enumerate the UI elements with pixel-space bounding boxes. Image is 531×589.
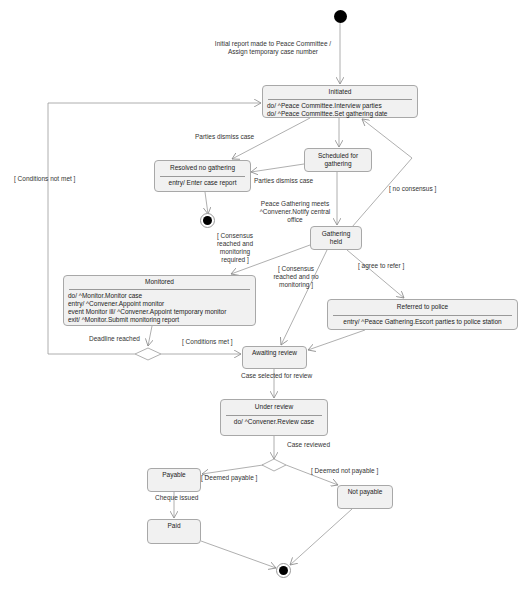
compartment-divider xyxy=(333,315,512,316)
state-awaiting-review[interactable]: Awaiting review xyxy=(242,346,307,369)
transition-label-consensus-no-monitoring: [ Consensus reached and no monitoring ] xyxy=(268,265,324,289)
state-resolved-no-gathering[interactable]: Resolved no gathering entry/ Enter case … xyxy=(154,160,251,192)
label-line: Assign temporary case number xyxy=(205,48,341,56)
state-under-review[interactable]: Under review do/ ^Convener.Review case xyxy=(220,399,328,436)
transition-label-gathering-meets: Peace Gathering meets ^Convener.Notify c… xyxy=(254,200,336,224)
transition-label-deadline: Deadline reached xyxy=(89,335,140,343)
state-name: Scheduled for gathering xyxy=(305,149,371,168)
decision-diamond-payment xyxy=(262,459,286,471)
compartment-divider xyxy=(69,289,250,290)
label-line: [ Consensus xyxy=(211,232,259,240)
transition-label-cheque-issued: Cheque issued xyxy=(155,494,198,502)
transition-label-case-reviewed: Case reviewed xyxy=(287,441,330,449)
state-payable[interactable]: Payable xyxy=(147,468,201,492)
label-line: Peace Gathering meets xyxy=(254,200,336,208)
state-name: Gathering held xyxy=(311,227,361,246)
state-gathering-held[interactable]: Gathering held xyxy=(310,226,362,250)
state-action: do/ ^Convener.Review case xyxy=(221,418,327,426)
label-line: office xyxy=(254,216,336,224)
state-paid[interactable]: Paid xyxy=(147,519,201,544)
label-line: Initial report made to Peace Committee / xyxy=(205,40,341,48)
state-action: do/ ^Peace Committee.Interview parties xyxy=(263,102,417,110)
state-action: exit/ ^Monitor.Submit monitoring report xyxy=(64,316,255,324)
state-not-payable[interactable]: Not payable xyxy=(337,485,393,509)
initial-state xyxy=(334,10,347,23)
state-action: entry/ ^Peace Gathering.Escort parties t… xyxy=(328,318,517,326)
compartment-divider xyxy=(160,176,245,177)
state-name: Not payable xyxy=(338,486,392,496)
label-line: ^Convener.Notify central xyxy=(254,208,336,216)
transition-label-case-selected: Case selected for review xyxy=(241,372,312,380)
state-name: Initiated xyxy=(263,86,417,96)
state-initiated[interactable]: Initiated do/ ^Peace Committee.Interview… xyxy=(262,85,418,118)
state-action: event Monitor ill/ ^Convener.Appoint tem… xyxy=(64,308,255,316)
label-line: monitoring ] xyxy=(268,281,324,289)
label-line: reached and xyxy=(211,240,259,248)
transition-label-initial: Initial report made to Peace Committee /… xyxy=(205,40,341,56)
transition-label-dismiss-initiated: Parties dismiss case xyxy=(195,133,254,141)
state-name: Awaiting review xyxy=(243,347,306,357)
compartment-divider xyxy=(226,415,322,416)
transition-label-deemed-payable: [ Deemed payable ] xyxy=(201,474,257,482)
state-scheduled-for-gathering[interactable]: Scheduled for gathering xyxy=(304,148,372,172)
state-name: Monitored xyxy=(64,276,255,286)
state-name: Resolved no gathering xyxy=(155,161,250,172)
final-state-end xyxy=(276,563,291,578)
label-line: required ] xyxy=(211,256,259,264)
transition-label-agree-refer: [ agree to refer ] xyxy=(358,262,404,270)
transition-label-consensus-monitoring: [ Consensus reached and monitoring requi… xyxy=(211,232,259,264)
state-action: do/ ^Peace Committee.Set gathering date xyxy=(263,110,417,118)
state-name: Paid xyxy=(148,520,200,530)
label-line: monitoring xyxy=(211,248,259,256)
state-monitored[interactable]: Monitored do/ ^Monitor.Monitor case entr… xyxy=(63,275,256,326)
state-referred-to-police[interactable]: Referred to police entry/ ^Peace Gatheri… xyxy=(327,299,518,330)
final-state-resolved xyxy=(200,213,215,228)
state-action: do/ ^Monitor.Monitor case xyxy=(64,292,255,300)
state-action: entry/ Enter case report xyxy=(155,179,250,187)
transition-label-conditions-met: [ Conditions met ] xyxy=(182,338,233,346)
label-line: [ Consensus xyxy=(268,265,324,273)
transition-label-no-consensus: [ no consensus ] xyxy=(389,185,436,193)
label-line: reached and no xyxy=(268,273,324,281)
transition-label-dismiss-scheduled: Parties dismiss case xyxy=(254,177,313,185)
transition-label-deemed-not-payable: [ Deemed not payable ] xyxy=(311,467,378,475)
decision-diamond-monitoring xyxy=(135,348,161,360)
state-name: Payable xyxy=(148,469,200,479)
compartment-divider xyxy=(268,99,412,100)
state-name: Referred to police xyxy=(328,300,517,311)
transition-label-conditions-not-met: [ Conditions not met ] xyxy=(14,175,75,183)
state-name: Under review xyxy=(221,400,327,411)
state-action: entry/ ^Convener.Appoint monitor xyxy=(64,300,255,308)
